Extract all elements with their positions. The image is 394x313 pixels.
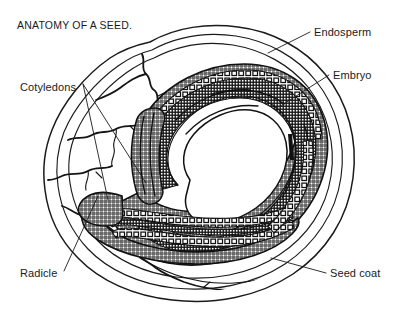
radicle-body: [78, 192, 122, 226]
seed-anatomy-figure: ANATOMY OF A SEED. Endosperm Embryo Seed…: [0, 0, 394, 313]
figure-title: ANATOMY OF A SEED.: [17, 19, 132, 31]
label-radicle: Radicle: [20, 267, 57, 279]
label-cotyledons: Cotyledons: [20, 81, 76, 93]
label-endosperm: Endosperm: [314, 26, 371, 38]
cotyledon-column: [132, 108, 165, 204]
label-seed-coat: Seed coat: [330, 267, 380, 279]
seed-diagram: ANATOMY OF A SEED. Endosperm Embryo Seed…: [0, 0, 394, 313]
label-embryo: Embryo: [333, 69, 372, 81]
